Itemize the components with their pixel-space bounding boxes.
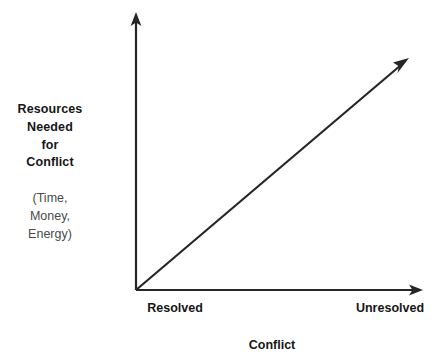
y-axis-subtitle-line-3: Energy) <box>28 227 72 241</box>
x-tick-label-resolved: Resolved <box>130 300 220 316</box>
label-layer: ResourcesNeededforConflict (Time,Money,E… <box>0 0 436 362</box>
y-axis-title-line-1: Resources <box>18 102 83 116</box>
y-axis-title-line-3: for <box>42 138 59 152</box>
y-axis-title-line-2: Needed <box>27 120 73 134</box>
x-tick-label-unresolved: Unresolved <box>345 300 435 316</box>
y-axis-title-line-4: Conflict <box>26 155 73 169</box>
y-axis-subtitle-line-2: Money, <box>30 209 70 223</box>
y-axis-subtitle-line-1: (Time, <box>33 191 68 205</box>
diagram-canvas: ResourcesNeededforConflict (Time,Money,E… <box>0 0 436 362</box>
y-axis-subtitle: (Time,Money,Energy) <box>2 190 98 243</box>
y-axis-title: ResourcesNeededforConflict <box>2 101 98 172</box>
x-axis-title: Conflict <box>212 337 332 353</box>
